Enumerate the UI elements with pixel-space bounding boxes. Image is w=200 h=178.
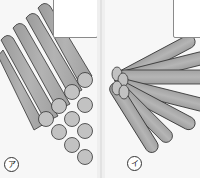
answer-box-i: [173, 0, 200, 38]
answer-box-a: [53, 0, 97, 38]
panel-a: ア: [0, 0, 97, 178]
panel-label-i: イ: [127, 156, 142, 171]
panel-label-a: ア: [4, 157, 19, 172]
panel-i: イ: [105, 0, 200, 178]
panel-divider: [97, 0, 105, 178]
